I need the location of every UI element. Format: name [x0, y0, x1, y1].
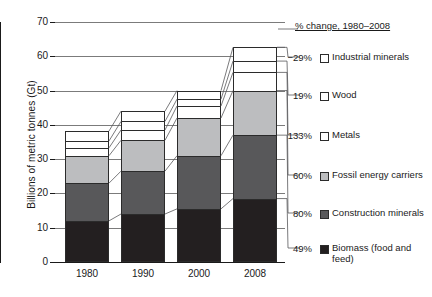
legend-pct-change: 60%: [278, 170, 312, 181]
legend-pct-change: 49%: [278, 243, 312, 254]
y-axis-title: Billions of metric tonnes (Gt): [26, 50, 37, 240]
legend-label: Industrial minerals: [332, 52, 432, 63]
legend-pct-change: 80%: [278, 208, 312, 219]
plot-area: [55, 22, 285, 262]
bar-segment: [121, 214, 165, 262]
bar-segment: [177, 106, 221, 118]
y-axis-line: [0, 22, 1, 263]
y-tick-label: 50: [8, 85, 48, 96]
x-tick-label: 2000: [169, 268, 229, 279]
legend-swatch: [320, 172, 329, 181]
legend-swatch: [320, 245, 329, 254]
bar-segment: [233, 199, 277, 262]
legend-swatch: [320, 92, 329, 101]
y-tick-label: 40: [8, 119, 48, 130]
bar-segment: [233, 61, 277, 72]
x-tick-label: 1980: [57, 268, 117, 279]
legend-swatch: [320, 54, 329, 63]
gridline: [55, 22, 285, 23]
y-tick-label: 20: [8, 187, 48, 198]
bar-segment: [121, 140, 165, 171]
bar-segment: [65, 221, 109, 262]
bar-2008: [233, 47, 277, 262]
x-tick-label: 1990: [113, 268, 173, 279]
bar-segment: [233, 91, 277, 136]
bar-2000: [177, 91, 221, 262]
legend-title: % change, 1980–2008: [295, 20, 390, 31]
legend-label: Wood: [332, 90, 432, 101]
legend-label: Metals: [332, 130, 432, 141]
bar-segment: [65, 183, 109, 221]
bar-1980: [65, 131, 109, 262]
bar-segment: [177, 156, 221, 209]
bar-segment: [233, 47, 277, 61]
bar-segment: [177, 209, 221, 262]
bar-segment: [65, 141, 109, 148]
legend-pct-change: −29%: [278, 52, 312, 63]
y-tick-label: 30: [8, 153, 48, 164]
bar-segment: [65, 131, 109, 141]
bar-segment: [121, 121, 165, 130]
bar-segment: [121, 171, 165, 214]
y-tick-label: 10: [8, 222, 48, 233]
legend-label: Construction minerals: [332, 208, 432, 219]
legend-pct-change: 19%: [278, 90, 312, 101]
legend-swatch: [320, 132, 329, 141]
legend-label: Biomass (food and feed): [332, 243, 432, 264]
x-tick-label: 2008: [225, 268, 285, 279]
y-tick-label: 70: [8, 16, 48, 27]
gridline: [55, 262, 285, 263]
bar-segment: [233, 72, 277, 90]
bar-segment: [121, 111, 165, 121]
y-tick-label: 0: [8, 256, 48, 267]
bar-segment: [177, 118, 221, 156]
bar-segment: [233, 135, 277, 198]
bar-segment: [65, 156, 109, 183]
legend-pct-change: 133%: [278, 130, 312, 141]
legend: % change, 1980–2008 −29%Industrial miner…: [278, 0, 432, 297]
stacked-bar-chart: Billions of metric tonnes (Gt) 010203040…: [0, 0, 432, 297]
legend-swatch: [320, 210, 329, 219]
bar-segment: [65, 148, 109, 156]
bar-segment: [177, 91, 221, 100]
y-tick-label: 60: [8, 50, 48, 61]
legend-label: Fossil energy carriers: [332, 170, 432, 181]
bar-1990: [121, 111, 165, 262]
bar-segment: [121, 130, 165, 140]
bar-segment: [177, 99, 221, 106]
